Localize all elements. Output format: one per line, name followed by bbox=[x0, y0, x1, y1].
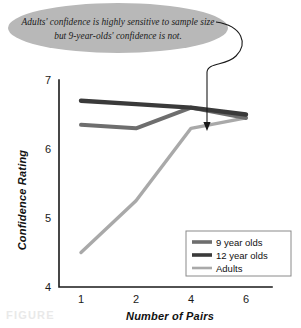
y-axis-title: Confidence Rating bbox=[16, 150, 28, 251]
legend-label: Adults bbox=[216, 263, 243, 274]
y-tick-label: 5 bbox=[45, 212, 51, 224]
x-tick-label: 6 bbox=[243, 293, 249, 305]
figure-caption-ghost: FIGURE bbox=[6, 309, 55, 321]
y-tick-label: 7 bbox=[45, 74, 51, 86]
x-tick-label: 1 bbox=[78, 293, 84, 305]
x-tick-label: 4 bbox=[188, 293, 194, 305]
x-axis-title: Number of Pairs bbox=[126, 310, 214, 322]
figure-container: 4567 1246 Confidence Rating Number of Pa… bbox=[0, 0, 301, 328]
chart-legend: 9 year olds12 year oldsAdults bbox=[186, 231, 291, 276]
y-tick-label: 4 bbox=[45, 281, 51, 293]
legend-label: 9 year olds bbox=[216, 237, 263, 248]
legend-label: 12 year olds bbox=[216, 250, 268, 261]
callout-text-line-2: but 9-year-olds' confidence is not. bbox=[54, 31, 182, 41]
x-tick-label: 2 bbox=[133, 293, 139, 305]
series-line-12-year-olds bbox=[81, 101, 246, 115]
annotation-callout: Adults' confidence is highly sensitive t… bbox=[8, 3, 242, 131]
confidence-rating-line-chart: 4567 1246 Confidence Rating Number of Pa… bbox=[0, 0, 301, 328]
callout-bubble bbox=[8, 3, 228, 53]
data-series-group bbox=[81, 101, 246, 253]
x-axis-tick-labels: 1246 bbox=[78, 293, 249, 305]
callout-text-line-1: Adults' confidence is highly sensitive t… bbox=[21, 17, 215, 27]
y-axis-tick-labels: 4567 bbox=[45, 74, 51, 293]
y-tick-label: 6 bbox=[45, 143, 51, 155]
